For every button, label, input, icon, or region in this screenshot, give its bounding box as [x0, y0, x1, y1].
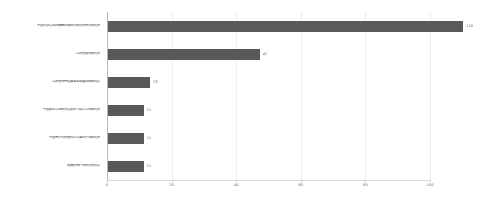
bar-container: 11	[108, 96, 151, 124]
bar-value-label: 11	[147, 136, 152, 140]
bar-value-label: 11	[147, 164, 152, 168]
bar[interactable]	[108, 161, 144, 172]
x-tick-label: 0	[106, 183, 108, 187]
bar-value-label: 11	[147, 108, 152, 112]
category-label: 江苏省激光研究所	[0, 52, 100, 56]
bar-container: 11	[108, 124, 151, 152]
bar-container: 47	[108, 40, 267, 68]
x-tick-mark	[172, 180, 173, 182]
bar-container: 11	[108, 152, 151, 180]
category-label: 中国航空工业研究院航空气动力工业研究所	[0, 108, 100, 112]
bar[interactable]	[108, 21, 463, 32]
bar-row[interactable]: 江苏省激光研究所47	[0, 40, 491, 68]
bar-row[interactable]: 南通光电产业技术研究院11	[0, 152, 491, 180]
bar[interactable]	[108, 77, 150, 88]
x-tick-mark	[107, 180, 108, 182]
x-tick-label: 20	[169, 183, 174, 187]
x-tick-mark	[301, 180, 302, 182]
category-label: 中国电子科技集团公司第四十五研究所	[0, 136, 100, 140]
x-tick-label: 40	[234, 183, 239, 187]
bar-value-label: 110	[466, 24, 473, 28]
bar[interactable]	[108, 49, 260, 60]
x-tick-label: 60	[299, 183, 304, 187]
x-tick-mark	[236, 180, 237, 182]
bar-rows: 中国科学院西光精密机械技术研究所技术研究所110江苏省激光研究所47江苏省特种设…	[0, 12, 491, 180]
category-label: 南通光电产业技术研究院	[0, 164, 100, 168]
bar[interactable]	[108, 105, 144, 116]
bar-container: 13	[108, 68, 158, 96]
bar-value-label: 47	[263, 52, 268, 56]
x-axis-line	[107, 180, 430, 181]
bar-container: 110	[108, 12, 473, 40]
category-label: 江苏省特种设备安全监督检验研究院	[0, 80, 100, 84]
bar-row[interactable]: 中国航空工业研究院航空气动力工业研究所11	[0, 96, 491, 124]
bar-row[interactable]: 中国科学院西光精密机械技术研究所技术研究所110	[0, 12, 491, 40]
category-label: 中国科学院西光精密机械技术研究所技术研究所	[0, 24, 100, 28]
x-tick-mark	[430, 180, 431, 182]
x-tick-mark	[365, 180, 366, 182]
bar-value-label: 13	[153, 80, 158, 84]
x-tick-label: 100	[427, 183, 434, 187]
bar-row[interactable]: 江苏省特种设备安全监督检验研究院13	[0, 68, 491, 96]
bar[interactable]	[108, 133, 144, 144]
x-tick-label: 80	[363, 183, 368, 187]
bar-chart: 中国科学院西光精密机械技术研究所技术研究所110江苏省激光研究所47江苏省特种设…	[0, 0, 491, 202]
bar-row[interactable]: 中国电子科技集团公司第四十五研究所11	[0, 124, 491, 152]
